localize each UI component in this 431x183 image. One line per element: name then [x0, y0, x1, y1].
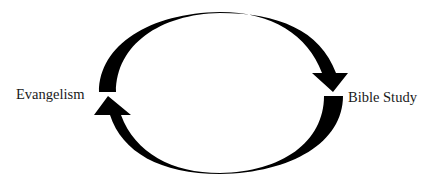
node-label-evangelism: Evangelism: [16, 86, 84, 103]
bottom-arrow-icon: [94, 96, 343, 174]
top-arrow-icon: [99, 12, 348, 92]
node-label-bible-study: Bible Study: [348, 89, 417, 106]
cycle-diagram: Evangelism Bible Study: [0, 0, 431, 183]
